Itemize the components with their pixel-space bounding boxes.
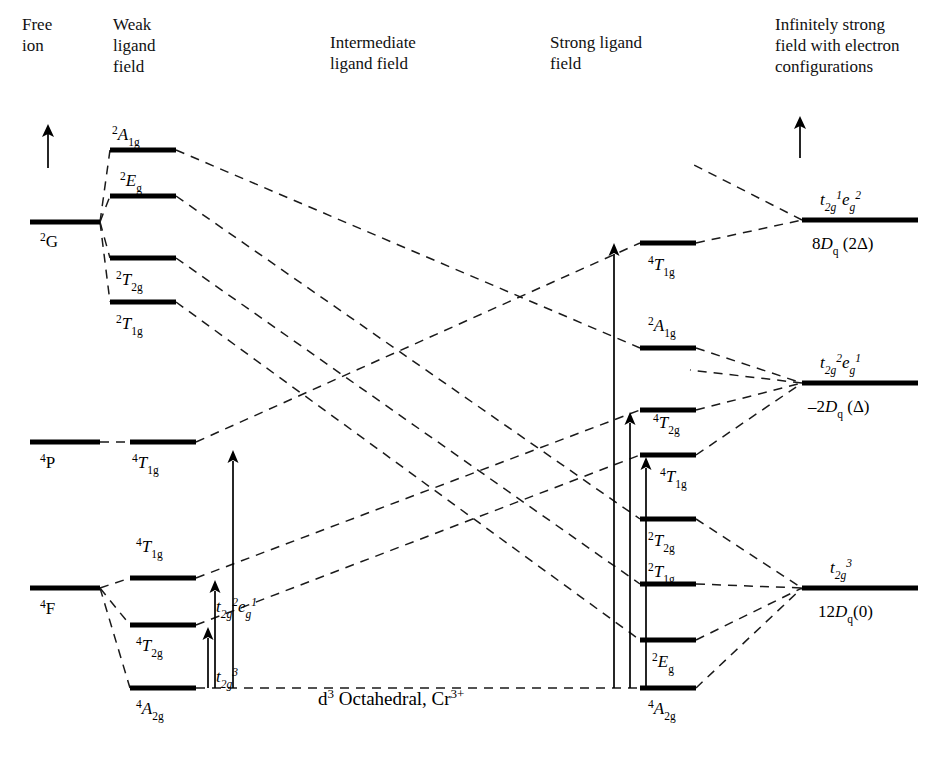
level-label-weak-field-4A2g: 4A2g xyxy=(136,698,164,723)
level-label-weak-field-4T1g-P: 4T1g xyxy=(132,452,159,477)
correlation-line-strong-2A1g-to-inf-t2g2eg1 xyxy=(696,348,802,383)
column-heading-strong-field-line2: field xyxy=(550,54,582,73)
correlation-line-4F-to-4T2g xyxy=(100,588,130,625)
correlation-line-strong-4T1g-mid-to-inf-t2g2eg1 xyxy=(696,383,802,455)
arrow-strong-arrow-tall xyxy=(609,243,620,688)
correlation-line-strong-4A2g-to-inf-t2g3 xyxy=(696,588,802,688)
level-label-weak-field-4T2g: 4T2g xyxy=(136,635,163,660)
correlation-line-weak-4T1gF-to-strong-4T2g xyxy=(196,410,640,578)
level-label-strong-field-2Eg: 2Eg xyxy=(652,651,674,676)
axis-arrow-right-energy-arrow xyxy=(794,116,806,158)
arrow-weak-arrow-short xyxy=(203,627,214,688)
correlation-line-strong-2Eg-to-inf-t2g3 xyxy=(696,588,802,640)
caption-text: d3 Octahedral, Cr3+ xyxy=(318,686,464,710)
figure-caption: d3 Octahedral, Cr3+ xyxy=(318,686,464,710)
energy-levels-group xyxy=(30,150,918,688)
column-heading-intermediate-field-line2: ligand field xyxy=(330,54,408,73)
transition-arrows-group xyxy=(203,243,652,688)
level-label-free-ion-4P: 4P xyxy=(40,452,55,472)
correlation-line-2G-to-2Eg xyxy=(100,196,110,222)
infinite-field-labels-group: t2g1eg28Dq (2Δ)t2g2eg1–2Dq (Δ)t2g312Dq(0… xyxy=(807,189,874,626)
correlation-line-inf-t2g1eg2-upper-branch xyxy=(694,165,802,220)
column-heading-weak-field-line1: Weak xyxy=(113,15,152,34)
correlation-line-weak-2A1g-to-strong-2A1g xyxy=(176,150,640,348)
column-heading-weak-field-line2: ligand xyxy=(113,36,156,55)
level-label-strong-field-2A1g: 2A1g xyxy=(648,315,676,340)
correlation-line-4F-to-4T1g xyxy=(100,578,130,588)
correlation-line-weak-4T2g-to-strong-4T1g-mid xyxy=(196,455,640,625)
level-label-strong-field-4T1g-mid: 4T1g xyxy=(660,466,687,491)
correlation-line-2G-to-2T1g xyxy=(100,222,110,302)
level-labels-group: 2G4P4F2A1g2Eg2T2g2T1g4T1g4T1g4T2g4A2g4T1… xyxy=(40,124,687,723)
column-heading-free-ion-line1: Free xyxy=(22,15,52,34)
level-label-strong-field-2T2g: 2T2g xyxy=(648,530,675,555)
column-headings: Free ion Weak ligand field Intermediate … xyxy=(22,15,900,76)
energy-value-label-t2g3: 12Dq(0) xyxy=(818,602,873,626)
axis-arrow-left-energy-arrow xyxy=(42,124,54,168)
correlation-line-weak-2Eg-to-strong-2T2g xyxy=(176,196,640,519)
energy-level-correlation-diagram: Free ion Weak ligand field Intermediate … xyxy=(0,0,939,762)
column-heading-infinite-field-line3: configurations xyxy=(775,57,873,76)
level-label-weak-field-2T1g: 2T1g xyxy=(116,313,143,338)
correlation-line-2G-to-2A1g xyxy=(100,150,110,222)
level-label-weak-field-2Eg: 2Eg xyxy=(120,170,142,195)
energy-value-label-t2g1eg2: 8Dq (2Δ) xyxy=(812,234,874,258)
correlation-line-inf-t2g2eg1-branch-a xyxy=(690,370,802,383)
energy-value-label-t2g2eg1: –2Dq (Δ) xyxy=(807,397,870,421)
level-label-strong-field-4A2g: 4A2g xyxy=(648,698,676,723)
arrow-strong-arrow-mid xyxy=(625,412,636,688)
level-label-strong-field-4T2g: 4T2g xyxy=(653,412,680,437)
correlation-line-strong-4T2g-to-inf-t2g2eg1 xyxy=(696,383,802,410)
energy-axis-arrows-group xyxy=(42,116,806,168)
config-label-infinite-t2g1eg2: t2g1eg2 xyxy=(820,189,861,214)
correlation-line-strong-4T1g-top-to-inf-t2g1eg2 xyxy=(696,220,802,243)
level-label-weak-field-2A1g: 2A1g xyxy=(112,124,140,149)
correlation-line-weak-2T2g-to-strong-2T1g xyxy=(176,258,640,584)
correlation-lines-group xyxy=(100,150,802,688)
level-label-free-ion-4F: 4F xyxy=(40,598,55,618)
correlation-line-weak-4T1gP-to-strong-4T1g-top xyxy=(196,243,640,442)
level-label-weak-field-2T2g: 2T2g xyxy=(116,269,143,294)
config-label-infinite-t2g3: t2g3 xyxy=(830,557,852,582)
config-label-weak-t2g2eg1: t2g2eg1 xyxy=(216,596,257,621)
column-heading-intermediate-field-line1: Intermediate xyxy=(330,33,416,52)
correlation-line-strong-2T1g-to-inf-t2g3 xyxy=(696,584,802,588)
config-label-infinite-t2g2eg1: t2g2eg1 xyxy=(820,352,861,377)
arrow-weak-arrow-tall xyxy=(228,450,239,688)
level-label-strong-field-4T1g-top: 4T1g xyxy=(648,254,675,279)
column-heading-weak-field-line3: field xyxy=(113,57,145,76)
correlation-line-strong-2T2g-to-inf-t2g3 xyxy=(696,519,802,588)
column-heading-infinite-field-line2: field with electron xyxy=(775,36,900,55)
column-heading-infinite-field-line1: Infinitely strong xyxy=(775,15,886,34)
level-label-weak-field-4T1g-F: 4T1g xyxy=(136,536,163,561)
level-label-free-ion-2G: 2G xyxy=(40,231,58,251)
column-heading-strong-field-line1: Strong ligand xyxy=(550,33,643,52)
correlation-line-4F-to-4A2g xyxy=(100,588,130,688)
weak-field-config-labels-group: t2g2eg1t2g3 xyxy=(216,596,257,691)
column-heading-free-ion-line2: ion xyxy=(22,36,44,55)
